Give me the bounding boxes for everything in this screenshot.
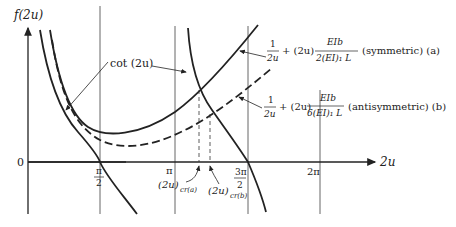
svg-text:2: 2 xyxy=(237,180,243,190)
svg-text:1: 1 xyxy=(270,39,276,49)
svg-text:(2u): (2u) xyxy=(158,179,179,190)
svg-text:2(EI)₁ L: 2(EI)₁ L xyxy=(315,53,351,63)
curve-a-symmetric xyxy=(50,25,258,133)
svg-text:1: 1 xyxy=(268,95,274,105)
buckling-diagram: f(2u) 2u 0 π 2 π 3π 2 2π cot (2u) 1 2u +… xyxy=(0,0,456,227)
svg-text:(2u): (2u) xyxy=(208,185,229,196)
critical-lines xyxy=(199,90,210,162)
svg-text:2u: 2u xyxy=(266,53,279,63)
svg-text:cr(b): cr(b) xyxy=(230,192,247,200)
tick-3pi-over-2: 3π 2 xyxy=(234,167,247,190)
svg-text:EIb: EIb xyxy=(326,37,343,47)
y-axis-label: f(2u) xyxy=(13,8,43,22)
svg-text:2u: 2u xyxy=(263,109,276,119)
tick-pi: π xyxy=(166,165,173,176)
origin-label: 0 xyxy=(17,156,24,169)
svg-text:3π: 3π xyxy=(235,167,247,177)
cot-label: cot (2u) xyxy=(110,57,153,70)
curve-b-antisymmetric xyxy=(52,40,272,146)
svg-text:cr(a): cr(a) xyxy=(180,186,197,194)
curve-b-label: 1 2u + (2u) EIb 6(EI)₁ L (antisymmetric)… xyxy=(263,93,446,119)
svg-text:EIb: EIb xyxy=(319,93,336,103)
svg-text:2: 2 xyxy=(96,178,102,188)
svg-text:(symmetric) (a): (symmetric) (a) xyxy=(362,45,440,56)
svg-text:(antisymmetric) (b): (antisymmetric) (b) xyxy=(348,101,446,112)
x-axis-label: 2u xyxy=(379,155,395,169)
curve-a-label: 1 2u + (2u) EIb 2(EI)₁ L (symmetric) (a) xyxy=(266,37,440,63)
svg-text:+ (2u): + (2u) xyxy=(282,45,314,56)
tick-2pi: 2π xyxy=(307,166,320,177)
svg-text:π: π xyxy=(96,166,102,176)
svg-text:6(EI)₁ L: 6(EI)₁ L xyxy=(307,108,342,118)
tick-pi-over-2: π 2 xyxy=(94,166,104,188)
cr-a-label: (2u) cr(a) xyxy=(158,179,197,194)
